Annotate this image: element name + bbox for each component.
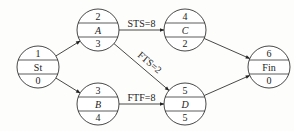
edge-label: FTF=8	[128, 92, 156, 103]
node-top: 2	[96, 11, 101, 22]
node-top: 5	[183, 85, 188, 96]
node-top: 6	[267, 48, 272, 59]
node-label: St	[34, 62, 43, 73]
node-label: D	[180, 99, 189, 110]
edge-C-Fin	[204, 38, 250, 58]
node-top: 1	[36, 48, 41, 59]
edge-B-D: FTF=8	[119, 92, 164, 104]
edge-label: STS=8	[128, 18, 156, 29]
node-bottom: 0	[267, 75, 272, 86]
edge-A-D: FTS=2	[114, 44, 169, 91]
edge-A-C: STS=8	[119, 18, 164, 30]
node-bottom: 4	[96, 112, 101, 123]
node-label: C	[182, 25, 189, 36]
node-A: 2A3	[77, 9, 119, 51]
node-bottom: 2	[183, 38, 188, 49]
node-top: 4	[183, 11, 188, 22]
diagram-canvas: STS=8FTS=2FTF=8 1St02A33B44C25D56Fin0	[0, 0, 294, 131]
node-bottom: 5	[183, 112, 188, 123]
node-bottom: 3	[96, 38, 101, 49]
node-C: 4C2	[164, 9, 206, 51]
edge-St-B	[56, 78, 80, 93]
edge-St-A	[56, 41, 80, 56]
node-label: Fin	[262, 62, 275, 73]
edge-label: FTS=2	[136, 49, 164, 75]
network-diagram: STS=8FTS=2FTF=8 1St02A33B44C25D56Fin0	[0, 0, 294, 131]
node-label: B	[95, 99, 101, 110]
edge-D-Fin	[204, 75, 250, 95]
node-St: 1St0	[17, 46, 59, 88]
node-D: 5D5	[164, 83, 206, 125]
node-Fin: 6Fin0	[248, 46, 290, 88]
node-top: 3	[96, 85, 101, 96]
node-bottom: 0	[36, 75, 41, 86]
node-B: 3B4	[77, 83, 119, 125]
node-label: A	[94, 25, 102, 36]
